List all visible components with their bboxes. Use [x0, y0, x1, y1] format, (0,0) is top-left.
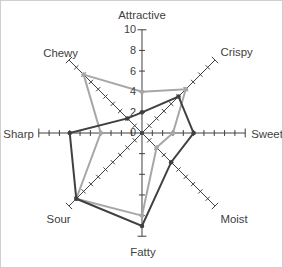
series-gray-profile-marker-moist [154, 145, 159, 150]
series-dark-profile-marker-moist [169, 160, 174, 165]
radar-chart-canvas: 1086420AttractiveCrispySweetMoistFattySo… [1, 1, 282, 267]
series-gray-profile-marker-sharp [98, 131, 103, 136]
series-gray-profile-marker-chewy [81, 72, 86, 77]
series-dark-profile-marker-attractive [140, 110, 145, 115]
radial-tick-label-6: 6 [130, 65, 136, 77]
axis-label-fatty: Fatty [130, 246, 156, 258]
radial-tick-label-2: 2 [130, 106, 136, 118]
series-dark-profile-marker-sweet [191, 131, 196, 136]
radial-tick-label-0: 0 [130, 126, 136, 138]
radial-tick-label-10: 10 [124, 23, 136, 35]
series-gray-profile-marker-attractive [140, 89, 145, 94]
series-dark-profile-marker-fatty [140, 224, 145, 229]
axes-center-dot [140, 131, 144, 135]
axis-label-sharp: Sharp [3, 128, 33, 140]
series-dark-profile-marker-crispy [176, 94, 181, 99]
axis-label-moist: Moist [220, 213, 248, 225]
axis-label-crispy: Crispy [220, 46, 253, 58]
axis-label-attractive: Attractive [118, 9, 166, 21]
radial-tick-label-4: 4 [130, 85, 136, 97]
series-gray-profile-marker-fatty [140, 213, 145, 218]
series-dark-profile-marker-sharp [67, 131, 72, 136]
axis-label-sour: Sour [47, 213, 71, 225]
series-gray-profile-marker-crispy [184, 87, 189, 92]
axis-label-chewy: Chewy [43, 47, 78, 59]
series-gray-profile-marker-sweet [171, 131, 176, 136]
series-dark-profile-marker-sour [74, 196, 79, 201]
axis-label-sweet: Sweet [251, 128, 282, 140]
radar-chart-figure: 1086420AttractiveCrispySweetMoistFattySo… [0, 0, 283, 268]
radial-tick-label-8: 8 [130, 44, 136, 56]
